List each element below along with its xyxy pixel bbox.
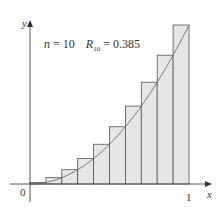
origin-label: 0 <box>20 186 26 198</box>
bar <box>94 144 110 184</box>
riemann-sum-chart: y x 0 1 n = 10 R10 = 0.385 <box>0 0 222 213</box>
bar <box>141 82 157 184</box>
bar <box>173 25 189 184</box>
x-axis-arrow-icon <box>205 181 212 187</box>
bar <box>125 106 141 184</box>
y-axis-arrow-icon <box>27 20 33 27</box>
annotation-text: n = 10 R10 = 0.385 <box>44 37 140 53</box>
x-axis-label: x <box>206 188 212 200</box>
x-tick-one: 1 <box>186 191 192 203</box>
y-axis-label: y <box>21 17 27 29</box>
bar <box>78 159 94 184</box>
bar <box>157 55 173 184</box>
